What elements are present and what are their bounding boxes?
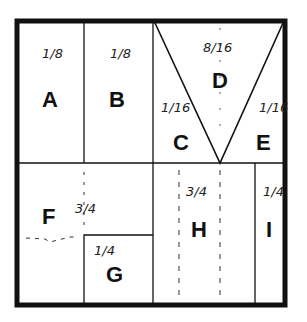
fraction-b: 1/8 [110,46,131,61]
fraction-h: 3/4 [186,184,207,199]
label-b: B [109,87,125,112]
label-d: D [212,68,228,93]
fraction-c: 1/16 [161,100,190,115]
label-g: G [106,262,123,287]
fraction-e: 1/16 [259,100,288,115]
label-i: I [266,217,272,242]
fraction-d: 8/16 [203,40,232,55]
f-dashed-horizontal [26,237,78,242]
fraction-i: 1/4 [263,184,284,199]
label-a: A [42,87,58,112]
label-f: F [42,204,55,229]
label-c: C [173,130,189,155]
fraction-a: 1/8 [42,46,63,61]
label-h: H [191,217,207,242]
fraction-g: 1/4 [94,243,115,258]
quilt-block-diagram: 1/8 1/8 1/16 8/16 1/16 3/4 1/4 3/4 1/4 A… [0,0,307,322]
fraction-f: 3/4 [75,201,96,216]
label-e: E [256,130,271,155]
